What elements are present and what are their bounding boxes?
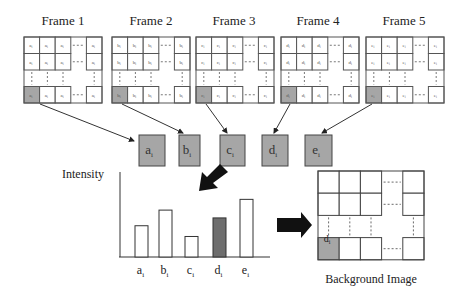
frame-1-grid: aiaiaiaiaiaiaiaiaiaiaiai — [24, 37, 102, 103]
pixel-grid: eieieieieieieieieieieiei — [366, 37, 444, 103]
pixel-cell — [403, 193, 424, 215]
pixel-cell — [318, 193, 339, 215]
selected-pixel-label: di — [324, 233, 331, 245]
bar-b_i — [159, 210, 172, 257]
frame-grids: aiaiaiaiaiaiaiaiaiaiaiaibibibibibibibibi… — [24, 37, 444, 103]
block-arrow-right-icon — [277, 212, 312, 238]
pixel-cell — [339, 193, 360, 215]
pixel-cell — [339, 171, 360, 193]
pixel-cell — [360, 238, 381, 260]
bar-c_i — [185, 236, 198, 257]
arrow-frame3-to-c — [206, 104, 227, 133]
pixel-cell — [318, 171, 339, 193]
x-tick-label: di — [215, 263, 223, 279]
arrow-frame1-to-a — [40, 104, 134, 141]
pixel-cell — [339, 238, 360, 260]
arrow-frame4-to-d — [274, 104, 290, 133]
x-tick-label: ai — [137, 263, 144, 279]
frame-2-title: Frame 2 — [130, 13, 173, 28]
intensity-chart: aibicidiei — [119, 172, 270, 279]
diagram-canvas: Frame 1 Frame 2 Frame 3 Frame 4 Frame 5 … — [0, 0, 464, 293]
bars — [135, 199, 253, 257]
frame-5-grid: eieieieieieieieieieieiei — [366, 37, 444, 103]
background-image-label: Background Image — [325, 272, 417, 286]
frame-3-grid: cicicicicicicicicicicici — [196, 37, 274, 103]
bar-d_i — [213, 218, 226, 257]
bar-e_i — [240, 199, 253, 257]
pixel-cell — [403, 171, 424, 193]
pixel-grid: aiaiaiaiaiaiaiaiaiaiaiai — [24, 37, 102, 103]
y-axis-label: Intensity — [62, 167, 104, 181]
bar-a_i — [135, 226, 148, 257]
pixel-cell — [403, 238, 424, 260]
background-image-grid: di — [318, 171, 424, 260]
x-tick-label: bi — [161, 263, 169, 279]
x-tick-label: ci — [187, 263, 194, 279]
block-arrow-down-left-icon — [199, 164, 228, 191]
frame-4-title: Frame 4 — [297, 13, 340, 28]
pixel-grid: di — [318, 171, 424, 260]
pixel-cell — [360, 193, 381, 215]
pixel-boxes: ai bi ci di ei — [139, 135, 332, 166]
frame-3-title: Frame 3 — [213, 13, 256, 28]
x-tick-labels: aibicidiei — [137, 263, 249, 279]
arrow-frame5-to-e — [322, 104, 372, 133]
pixel-grid: cicicicicicicicicicicici — [196, 37, 274, 103]
frame-2-grid: bibibibibibibibibibibibi — [112, 37, 190, 103]
arrow-frame2-to-b — [122, 104, 183, 133]
pixel-grid: bibibibibibibibibibibibi — [112, 37, 190, 103]
frame-5-title: Frame 5 — [383, 13, 426, 28]
frame-4-grid: didididididididididididi — [281, 37, 359, 103]
x-tick-label: ei — [242, 263, 249, 279]
pixel-cell — [360, 171, 381, 193]
pixel-grid: didididididididididididi — [281, 37, 359, 103]
frame-1-title: Frame 1 — [42, 13, 85, 28]
